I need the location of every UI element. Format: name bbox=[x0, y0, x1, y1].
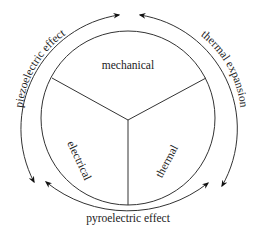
coupling-diagram: mechanical electrical thermal piezoelect… bbox=[0, 0, 254, 242]
arc-thermal-expansion bbox=[140, 15, 237, 186]
divider-left bbox=[52, 78, 128, 120]
divider-right bbox=[128, 78, 206, 120]
arc-pyroelectric bbox=[46, 182, 208, 211]
label-mechanical: mechanical bbox=[102, 59, 154, 71]
label-thermal: thermal bbox=[153, 143, 180, 180]
label-pyroelectric-effect: pyroelectric effect bbox=[86, 212, 171, 225]
label-piezoelectric-effect: piezoelectric effect bbox=[12, 26, 67, 108]
label-thermal-expansion: thermal expansion bbox=[199, 28, 250, 109]
label-electrical: electrical bbox=[65, 139, 94, 182]
arc-piezoelectric bbox=[21, 15, 119, 182]
